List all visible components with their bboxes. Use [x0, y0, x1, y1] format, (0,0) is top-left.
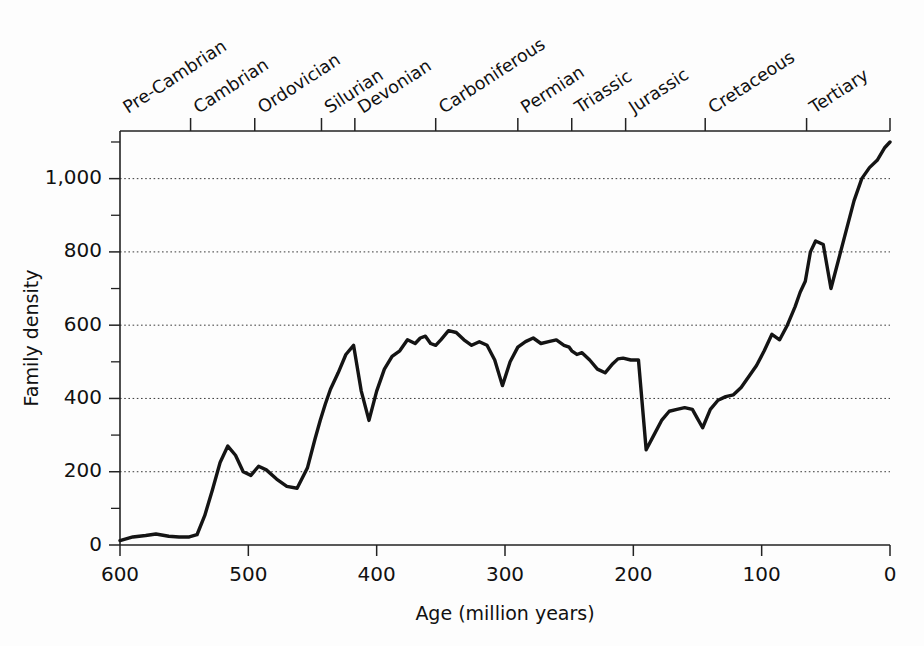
x-axis-tick-label: 200: [614, 562, 652, 586]
y-axis-tick-label: 1,000: [45, 165, 102, 189]
x-axis-tick-label: 0: [884, 562, 897, 586]
y-axis-tick-label: 800: [64, 238, 102, 262]
y-axis-tick-label: 400: [64, 385, 102, 409]
y-axis-tick-label: 600: [64, 312, 102, 336]
chart-container: Pre-CambrianCambrianOrdovicianSilurianDe…: [0, 0, 924, 646]
x-axis-tick-label: 100: [743, 562, 781, 586]
x-axis-tick-label: 600: [101, 562, 139, 586]
x-axis-tick-label: 400: [358, 562, 396, 586]
x-axis-tick-label: 500: [229, 562, 267, 586]
y-axis-title: Family density: [20, 270, 42, 407]
y-axis-tick-label: 0: [89, 532, 102, 556]
x-axis-tick-label: 300: [486, 562, 524, 586]
x-axis-title: Age (million years): [415, 602, 594, 624]
family-density-line-chart: Pre-CambrianCambrianOrdovicianSilurianDe…: [0, 0, 924, 646]
y-axis-tick-label: 200: [64, 458, 102, 482]
